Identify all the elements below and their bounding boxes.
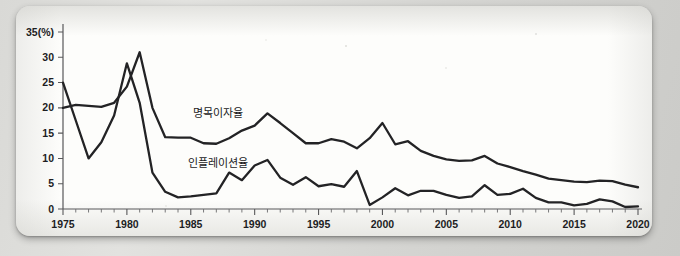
- y-tick-label: 20: [42, 101, 54, 113]
- y-tick-label: 10: [42, 152, 54, 164]
- series-label-inflation-rate: 인플레이션율: [188, 157, 248, 169]
- y-axis-ticks: [58, 32, 63, 209]
- x-tick-label: 1985: [179, 218, 203, 230]
- x-tick-label: 2010: [499, 218, 523, 230]
- x-tick-label: 1990: [243, 218, 267, 230]
- x-tick-label: 1975: [51, 218, 75, 230]
- x-tick-label: 1980: [115, 218, 139, 230]
- x-tick-label: 2000: [371, 218, 395, 230]
- x-tick-label: 2005: [435, 218, 459, 230]
- y-tick-label: 35(%): [26, 26, 54, 38]
- y-tick-label: 25: [42, 76, 54, 88]
- y-tick-label: 5: [48, 177, 54, 189]
- series-line-inflation-rate: [63, 63, 638, 207]
- y-tick-label: 0: [48, 203, 54, 215]
- x-tick-label: 2015: [562, 218, 586, 230]
- y-tick-label: 30: [42, 51, 54, 63]
- x-axis-ticks: [63, 209, 638, 215]
- figure-card: 05101520253035(%) 1975198019851990199520…: [16, 6, 652, 236]
- scan-specks: [165, 33, 537, 207]
- line-chart: 05101520253035(%) 1975198019851990199520…: [16, 6, 652, 236]
- y-axis-labels: 05101520253035(%): [26, 26, 54, 215]
- chart-svg: 05101520253035(%) 1975198019851990199520…: [16, 6, 652, 236]
- x-tick-label: 2020: [626, 218, 650, 230]
- series-line-nominal-interest-rate: [63, 52, 638, 187]
- series-label-nominal-interest-rate: 명목이자율: [193, 107, 243, 119]
- y-tick-label: 15: [42, 127, 54, 139]
- x-axis-labels: 1975198019851990199520002005201020152020: [51, 218, 650, 230]
- x-tick-label: 1995: [307, 218, 331, 230]
